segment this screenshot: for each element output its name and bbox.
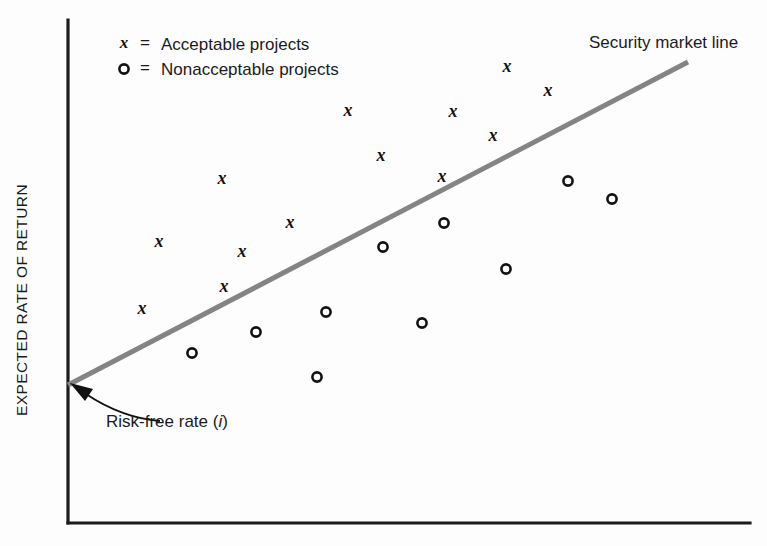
risk-free-rate-label: Risk-free rate (i) (106, 412, 228, 431)
data-point-acceptable: x (137, 298, 147, 318)
security-market-line-label: Security market line (589, 33, 738, 52)
data-point-acceptable: x (543, 80, 553, 100)
chart-page: EXPECTED RATE OF RETURN x = Acceptable p… (0, 0, 767, 546)
data-point-acceptable: x (219, 276, 229, 296)
data-point-acceptable: x (154, 231, 164, 251)
data-point-acceptable: x (343, 100, 353, 120)
data-point-acceptable: x (237, 241, 247, 261)
data-point-acceptable: x (437, 166, 447, 186)
risk-free-rate-suffix: ) (222, 412, 228, 431)
data-point-acceptable: x (488, 125, 498, 145)
legend-equals-acceptable: = (140, 33, 150, 52)
risk-free-rate-prefix: Risk-free rate ( (106, 412, 219, 431)
data-point-acceptable: x (285, 212, 295, 232)
legend-equals-nonacceptable: = (140, 58, 150, 77)
legend-label-nonacceptable: Nonacceptable projects (161, 60, 339, 79)
data-point-acceptable: x (376, 145, 386, 165)
y-axis-label: EXPECTED RATE OF RETURN (13, 184, 30, 416)
legend-symbol-x: x (119, 33, 129, 52)
data-point-acceptable: x (448, 101, 458, 121)
legend-label-acceptable: Acceptable projects (161, 35, 309, 54)
data-point-acceptable: x (217, 168, 227, 188)
security-market-line-chart: EXPECTED RATE OF RETURN x = Acceptable p… (0, 0, 767, 546)
data-point-acceptable: x (502, 56, 512, 76)
